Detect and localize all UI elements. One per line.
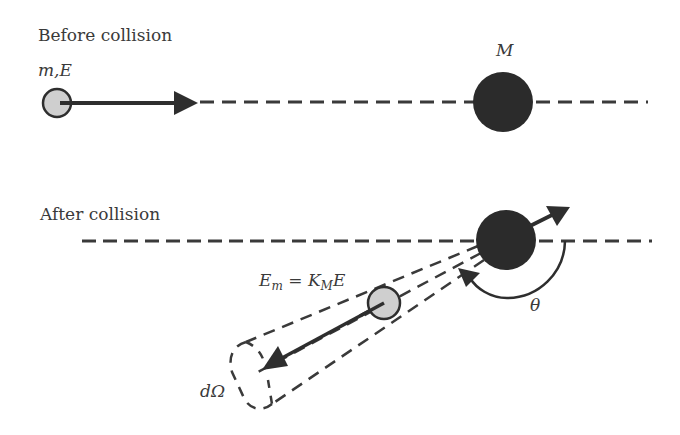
solid-angle-label: dΩ <box>200 383 225 400</box>
recoil-velocity-arrow-shaft <box>530 215 552 226</box>
after-collision-title: After collision <box>40 206 160 223</box>
after-collision-group <box>82 206 652 409</box>
energy-rhs: E <box>333 270 345 290</box>
solid-angle-cap-inner-lower <box>268 380 272 404</box>
recoil-target-particle <box>476 210 536 270</box>
energy-equation: Em = KME <box>259 272 345 292</box>
projectile-label: m,E <box>38 62 72 79</box>
scattering-angle-label: θ <box>530 297 540 314</box>
solid-angle-cap-inner <box>246 342 264 362</box>
target-label: M <box>496 42 513 59</box>
projectile-arrowhead-icon <box>174 91 198 115</box>
cone-upper-edge <box>246 246 478 342</box>
before-collision-title: Before collision <box>38 27 172 44</box>
energy-lhs-subscript: m <box>271 279 282 293</box>
before-collision-group <box>43 72 648 132</box>
collision-diagram: Before collision m,E M After collision E… <box>0 0 680 435</box>
energy-lhs: E <box>259 270 271 290</box>
energy-k: K <box>308 270 321 290</box>
energy-equals: = <box>283 270 308 290</box>
angle-arc-arrowhead-icon <box>458 268 480 287</box>
solid-angle-cap <box>231 342 272 409</box>
target-particle <box>473 72 533 132</box>
energy-k-subscript: M <box>321 279 333 293</box>
